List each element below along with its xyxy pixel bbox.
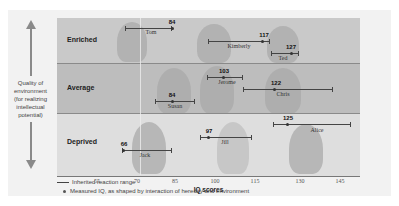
face-image-jill xyxy=(217,122,249,174)
down-arrow-icon xyxy=(26,160,36,169)
measured-point-jill xyxy=(207,136,210,139)
person-name-alice: Alice xyxy=(311,127,324,133)
row-label-enriched: Enriched xyxy=(67,36,97,43)
dot-icon xyxy=(63,190,66,193)
x-tick-145: 145 xyxy=(336,178,345,184)
person-name-tom: Tom xyxy=(146,29,157,35)
person-name-jack: Jack xyxy=(140,152,151,158)
measured-value-tom: 84 xyxy=(169,19,176,25)
up-arrow-icon xyxy=(26,20,36,29)
measured-value-alice: 125 xyxy=(283,115,293,121)
measured-point-ted xyxy=(290,52,293,55)
y-axis: Quality of environment (for realizing in… xyxy=(8,18,53,175)
legend: Inherited reaction range Measured IQ, as… xyxy=(57,178,249,196)
measured-value-ted: 127 xyxy=(286,44,296,50)
range-bar-alice xyxy=(273,124,351,125)
x-tick-115: 115 xyxy=(251,178,260,184)
up-arrow-line xyxy=(30,26,32,76)
range-bar-susan xyxy=(155,101,195,102)
range-bar-jerome xyxy=(207,77,243,78)
y-label-line: Quality of xyxy=(8,79,53,87)
measured-value-jill: 97 xyxy=(206,128,213,134)
measured-value-jack: 66 xyxy=(121,141,128,147)
y-label-line: potential) xyxy=(8,111,53,119)
row-deprived: Deprived xyxy=(57,113,360,177)
person-name-chris: Chris xyxy=(276,91,289,97)
y-axis-label: Quality of environment (for realizing in… xyxy=(8,79,53,119)
legend-item-range: Inherited reaction range xyxy=(57,178,249,187)
legend-label-dot: Measured IQ, as shaped by interaction of… xyxy=(70,188,249,194)
plot-area: Enriched Average Deprived 84 Tom 117 Kim… xyxy=(57,18,360,175)
measured-value-jerome: 103 xyxy=(219,68,229,74)
person-name-ted: Ted xyxy=(279,55,288,61)
measured-point-alice xyxy=(286,123,289,126)
measured-point-tom xyxy=(171,27,174,30)
face-image-jack xyxy=(132,122,166,174)
measured-point-kimberly xyxy=(261,40,264,43)
person-name-kimberly: Kimberly xyxy=(228,43,251,49)
legend-label-range: Inherited reaction range xyxy=(72,179,135,185)
measured-point-chris xyxy=(273,88,276,91)
face-image-kimberly xyxy=(197,24,231,63)
y-label-line: intellectual xyxy=(8,103,53,111)
range-bar-chris xyxy=(243,89,333,90)
range-bar-jack xyxy=(122,150,172,151)
measured-value-chris: 122 xyxy=(271,80,281,86)
row-label-deprived: Deprived xyxy=(67,138,97,145)
measured-point-jack xyxy=(122,149,125,152)
x-tick-130: 130 xyxy=(296,178,305,184)
y-label-line: environment xyxy=(8,87,53,95)
range-bar-icon xyxy=(57,182,69,183)
down-arrow-line xyxy=(30,122,32,162)
person-name-susan: Susan xyxy=(168,103,182,109)
y-label-line: (for realizing xyxy=(8,95,53,103)
measured-value-susan: 84 xyxy=(169,92,176,98)
measured-value-kimberly: 117 xyxy=(259,32,269,38)
person-name-jill: Jill xyxy=(221,139,228,145)
range-bar-ted xyxy=(271,53,299,54)
row-label-average: Average xyxy=(67,84,94,91)
person-name-jerome: Jerome xyxy=(218,79,235,85)
legend-item-dot: Measured IQ, as shaped by interaction of… xyxy=(57,187,249,196)
